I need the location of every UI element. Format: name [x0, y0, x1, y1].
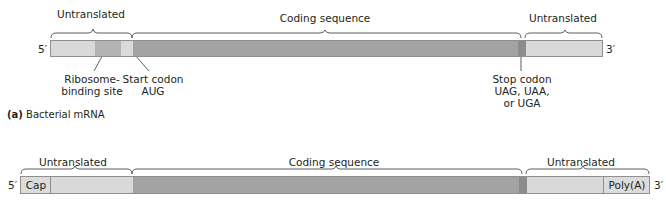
eukaryotic-5-utr-segment	[51, 177, 133, 193]
poly-a-label: Poly(A)	[603, 177, 650, 193]
eukaryotic-stop-codon-segment	[519, 177, 527, 193]
eukaryotic-3-prime-label: 3′	[654, 179, 663, 191]
eukaryotic-3-utr-segment	[527, 177, 603, 193]
eukaryotic-5-prime-label: 5′	[8, 179, 17, 191]
eukaryotic-coding-segment	[133, 177, 519, 193]
cap-label: Cap	[21, 177, 51, 193]
eukaryotic-mrna-bar: Cap Poly(A)	[20, 176, 650, 194]
